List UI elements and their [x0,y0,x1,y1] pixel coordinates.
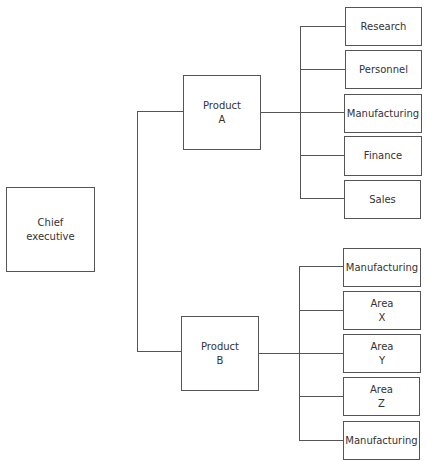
connector-to-product-b [137,351,181,352]
department-label-1: Area [370,297,393,311]
department-research: Research [345,7,422,46]
product-a-box: Product A [183,75,261,150]
product-b-label-1: Product [201,340,239,354]
branch-a-3 [300,155,345,156]
department-finance: Finance [344,136,422,176]
branch-a-4 [300,198,345,199]
department-label: Sales [369,193,396,207]
connector-product-b-out [259,353,343,354]
chief-executive-label-2: executive [26,230,74,244]
department-label: Research [361,20,407,34]
department-label: Finance [364,149,402,163]
department-manufacturing-a: Manufacturing [344,94,422,133]
connector-to-product-a [137,111,183,112]
chief-executive-box: Chief executive [6,187,95,272]
branch-b-3 [299,396,343,397]
chief-executive-label-1: Chief [38,216,64,230]
department-label-2: Z [378,397,385,411]
department-label: Manufacturing [347,107,419,121]
branch-b-0 [299,266,343,267]
department-area-x: Area X [343,291,421,330]
department-label: Manufacturing [346,261,418,275]
branch-a-1 [300,69,345,70]
department-label: Personnel [359,63,408,77]
trunk-product-a [300,26,301,199]
department-area-z: Area Z [343,377,420,416]
department-label-2: X [379,311,386,325]
department-personnel: Personnel [345,50,422,89]
branch-b-4 [299,440,343,441]
product-a-label-1: Product [203,99,241,113]
department-manufacturing-b1: Manufacturing [343,248,421,287]
connector-products-vertical [137,111,138,352]
department-label-1: Area [370,383,393,397]
branch-a-0 [300,26,345,27]
product-a-label-2: A [219,113,226,127]
department-label-2: Y [379,354,385,368]
department-area-y: Area Y [343,334,421,373]
product-b-label-2: B [217,354,224,368]
product-b-box: Product B [181,316,259,391]
branch-b-1 [299,310,343,311]
department-label-1: Area [370,340,393,354]
department-label: Manufacturing [345,434,417,448]
department-manufacturing-b2: Manufacturing [343,421,420,460]
trunk-product-b [299,266,300,441]
department-sales: Sales [344,180,421,219]
connector-product-a-out [261,112,345,113]
